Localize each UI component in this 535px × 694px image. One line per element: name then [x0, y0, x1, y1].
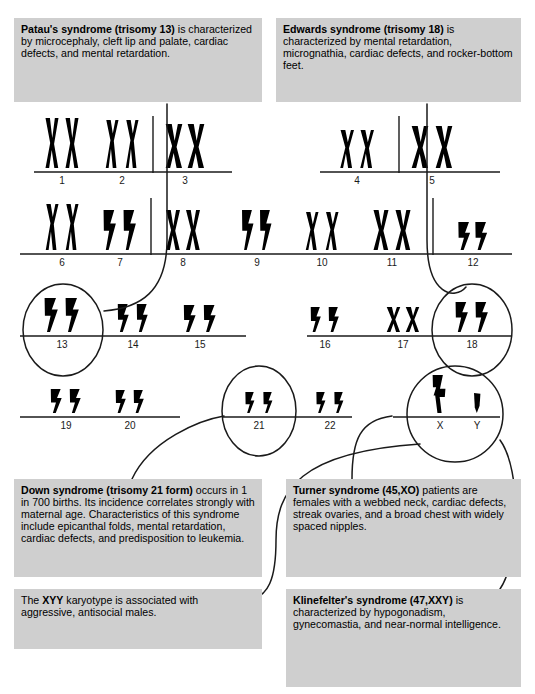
chromosome-label-12: 12 — [467, 257, 478, 268]
chromosome-label-Y: Y — [474, 420, 481, 431]
klinefelter-syndrome-box: Klinefelter's syndrome (47,XXY) is chara… — [286, 589, 521, 687]
edwards-title: Edwards syndrome (trisomy 18) — [283, 23, 444, 35]
xyy-karyotype-box: The XYY karyotype is associated with agg… — [14, 589, 262, 649]
klinefelter-title: Klinefelter's syndrome (47,XXY) — [293, 594, 453, 606]
karyotype-figure: 12345678910111213141516171819202122XY Pa… — [0, 0, 535, 694]
circle-chromosome-18 — [432, 284, 512, 376]
turner-title: Turner syndrome (45,XO) — [293, 484, 419, 496]
karyotype-baselines — [20, 172, 512, 417]
edwards-syndrome-box: Edwards syndrome (trisomy 18) is charact… — [276, 18, 521, 102]
connector-down-to-21 — [132, 416, 224, 479]
chromosome-label-19: 19 — [60, 420, 71, 431]
chromosome-label-6: 6 — [59, 257, 65, 268]
xyy-title: XYY — [42, 594, 63, 606]
chromosome-label-1: 1 — [59, 175, 65, 186]
karyotype-dividers — [151, 116, 433, 255]
chromosome-label-2: 2 — [119, 175, 125, 186]
chromosome-label-3: 3 — [182, 175, 188, 186]
turner-syndrome-box: Turner syndrome (45,XO) patients are fem… — [286, 479, 521, 577]
chromosome-label-5: 5 — [429, 175, 435, 186]
highlight-circles — [23, 284, 512, 462]
chromosome-shapes — [45, 118, 488, 413]
chromosome-label-17: 17 — [397, 339, 408, 350]
chromosome-label-10: 10 — [316, 257, 327, 268]
chromosome-label-14: 14 — [127, 339, 138, 350]
chromosome-label-22: 22 — [324, 420, 335, 431]
chromosome-label-9: 9 — [254, 257, 260, 268]
patau-title: Patau's syndrome (trisomy 13) — [21, 23, 175, 35]
chromosome-label-18: 18 — [466, 339, 477, 350]
chromosome-label-7: 7 — [117, 257, 123, 268]
chromosome-label-4: 4 — [354, 175, 360, 186]
chromosome-label-15: 15 — [194, 339, 205, 350]
connector-edwards-to-18 — [427, 104, 466, 293]
chromosome-label-21: 21 — [253, 420, 264, 431]
chromosome-label-X: X — [437, 420, 444, 431]
circle-chromosome-xy — [407, 366, 503, 462]
chromosome-label-13: 13 — [56, 339, 67, 350]
down-syndrome-box: Down syndrome (trisomy 21 form) occurs i… — [14, 479, 262, 577]
connector-patau-to-13 — [104, 104, 167, 311]
chromosome-label-8: 8 — [180, 257, 186, 268]
chromosome-label-11: 11 — [387, 257, 397, 268]
chromosome-label-20: 20 — [124, 420, 135, 431]
connector-turner-to-x — [352, 416, 392, 479]
patau-syndrome-box: Patau's syndrome (trisomy 13) is charact… — [14, 18, 262, 102]
xyy-prefix: The — [21, 594, 42, 606]
down-title: Down syndrome (trisomy 21 form) — [21, 484, 193, 496]
circle-chromosome-13 — [23, 284, 103, 376]
circle-chromosome-21 — [222, 366, 296, 456]
chromosome-label-16: 16 — [319, 339, 330, 350]
